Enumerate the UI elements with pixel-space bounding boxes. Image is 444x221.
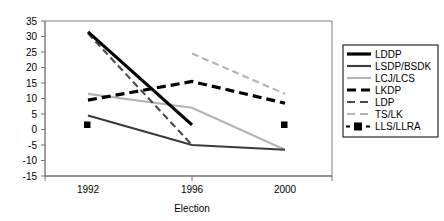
y-tick-label-5: 5	[31, 109, 37, 120]
y-tick-label-35: 35	[26, 16, 38, 27]
legend-label-ts-lk: TS/LK	[375, 109, 403, 120]
y-tick-label-10: 10	[26, 93, 38, 104]
x-axis-ticks	[45, 176, 332, 181]
legend-label-lsdp-bsdk: LSDP/BSDK	[375, 61, 431, 72]
y-tick-label-15: 15	[26, 78, 38, 89]
y-tick-label-30: 30	[26, 31, 38, 42]
legend: LDDP LSDP/BSDK LCJ/LCS LKDP LDP	[343, 45, 438, 137]
chart-container: 35 30 25 20 15 10 5 0 -5 -10 -15 1992 19…	[0, 0, 444, 221]
legend-swatch-lls-llra-marker	[354, 123, 362, 131]
marker-square-1992	[84, 122, 91, 129]
marker-square-2000	[281, 122, 288, 129]
x-axis-title: Election	[174, 203, 210, 214]
legend-label-ldp: LDP	[375, 97, 395, 108]
y-tick-label-minus15: -15	[23, 171, 38, 182]
x-tick-label-2000: 2000	[274, 184, 297, 195]
legend-label-lkdp: LKDP	[375, 85, 401, 96]
legend-label-lcj-lcs: LCJ/LCS	[375, 73, 415, 84]
y-tick-label-20: 20	[26, 62, 38, 73]
legend-label-lddp: LDDP	[375, 49, 402, 60]
y-tick-label-minus10: -10	[23, 155, 38, 166]
x-tick-label-1992: 1992	[77, 184, 100, 195]
x-tick-label-1996: 1996	[181, 184, 204, 195]
y-tick-label-25: 25	[26, 47, 38, 58]
y-tick-label-0: 0	[31, 124, 37, 135]
y-tick-label-minus5: -5	[28, 140, 37, 151]
line-chart-svg: 35 30 25 20 15 10 5 0 -5 -10 -15 1992 19…	[0, 0, 444, 221]
legend-item-lls-llra[interactable]: LLS/LLRA	[346, 121, 421, 132]
legend-label-lls-llra: LLS/LLRA	[375, 121, 421, 132]
